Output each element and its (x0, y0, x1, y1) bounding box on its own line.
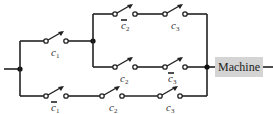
label-c2-bottom: c2 (109, 101, 118, 114)
junction-node-right (204, 64, 209, 69)
label-c2-bar: c2 (121, 19, 130, 33)
machine-label: Machine (218, 60, 260, 74)
switch-c2-bar (113, 4, 137, 16)
label-c1-bar: c1 (51, 101, 60, 114)
switch-c1 (44, 31, 68, 43)
label-c3-top: c3 (171, 19, 180, 33)
switch-c2-bottom (100, 86, 124, 98)
label-c2-mid: c2 (120, 72, 129, 86)
switching-circuit-diagram: c1 c2 c3 c2 c3 (0, 0, 273, 114)
switch-c3-bottom (158, 86, 182, 98)
switch-c3-top (163, 4, 187, 16)
label-c1: c1 (51, 46, 60, 60)
label-c3-bar: c3 (168, 72, 177, 86)
switch-c1-bar (44, 86, 68, 98)
switch-c3-bar (163, 57, 187, 69)
switch-c2-mid (113, 57, 137, 69)
label-c3-bottom: c3 (166, 101, 175, 114)
